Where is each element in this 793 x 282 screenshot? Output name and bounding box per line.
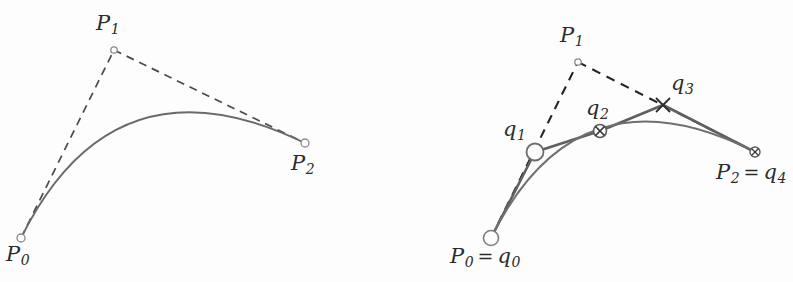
label-p2-base-right: P (716, 160, 730, 184)
label-equals-q0: = (478, 245, 494, 267)
left-point-p0-marker (17, 234, 25, 242)
left-point-p1-marker (111, 47, 117, 53)
label-q4-base: q (763, 160, 776, 184)
right-point-p1-marker (575, 59, 581, 65)
label-p1-sub-right: 1 (575, 33, 584, 49)
label-equals-q4: = (744, 161, 760, 183)
label-p1-base: P (96, 11, 110, 35)
label-q1-base: q (503, 117, 516, 141)
label-p2-left: P2 (291, 153, 315, 176)
label-q2-sub: 2 (600, 106, 609, 122)
label-p2-q4-right: P2=q4 (716, 162, 786, 185)
label-p0-left: P0 (6, 244, 30, 267)
label-q2-base: q (586, 96, 599, 120)
right-panel-group (484, 59, 761, 246)
label-p0-sub-right: 0 (465, 254, 474, 270)
label-p1-sub: 1 (111, 21, 120, 37)
right-point-q2-marker (594, 125, 607, 138)
right-point-q3-marker (656, 98, 670, 112)
figure-canvas (0, 0, 793, 282)
left-point-p2-marker (301, 139, 309, 147)
label-p0-q0-right: P0=q0 (450, 246, 520, 269)
label-p1-right: P1 (560, 25, 584, 48)
label-q1: q1 (503, 119, 526, 142)
left-control-polygon-p1-p2 (114, 50, 305, 143)
label-p2-base: P (291, 151, 305, 175)
label-q0-sub: 0 (511, 254, 520, 270)
right-point-q1-marker (527, 144, 544, 161)
bezier-figure: P0 P1 P2 P0=q0 P1 P2=q4 q1 q2 q3 (0, 0, 793, 282)
label-q1-sub: 1 (517, 127, 526, 143)
right-point-q4-marker (750, 147, 760, 157)
label-p1-base-right: P (560, 23, 574, 47)
label-q2: q2 (586, 98, 609, 121)
label-p1-left: P1 (96, 13, 120, 36)
label-q3-sub: 3 (685, 81, 694, 97)
left-panel-group (17, 47, 309, 242)
label-q4-sub: 4 (777, 170, 786, 186)
left-control-polygon-p0-p1 (21, 50, 114, 238)
label-p2-sub-right: 2 (731, 170, 740, 186)
left-bezier-curve (21, 112, 305, 238)
label-p0-base-right: P (450, 244, 464, 268)
label-p0-sub: 0 (21, 252, 30, 268)
label-p2-sub: 2 (306, 161, 315, 177)
label-q3: q3 (671, 73, 694, 96)
label-q0-base: q (497, 244, 510, 268)
label-q3-base: q (671, 71, 684, 95)
label-p0-base: P (6, 242, 20, 266)
